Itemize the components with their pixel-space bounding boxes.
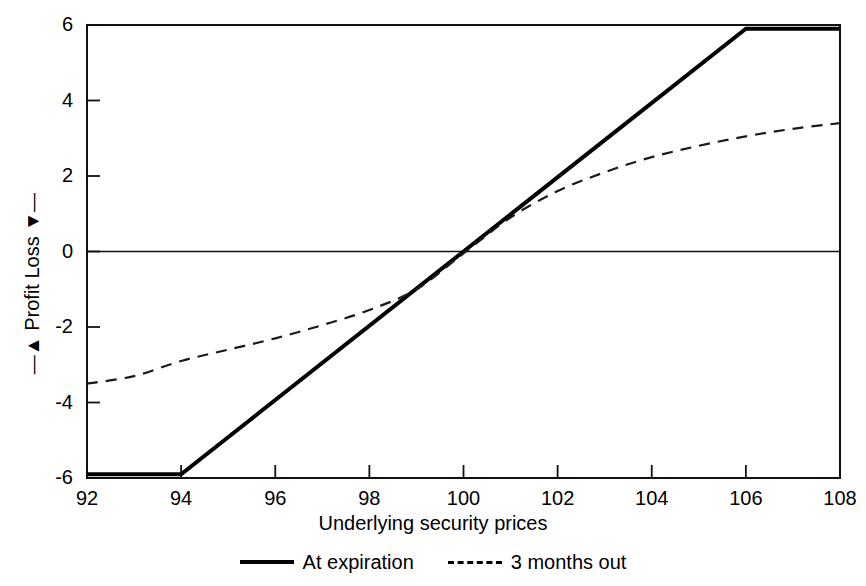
y-axis-title-profit: Profit xyxy=(21,284,43,331)
legend-solid-line-icon xyxy=(240,560,294,564)
x-tick-label-92: 92 xyxy=(47,488,127,508)
x-axis-title: Underlying security prices xyxy=(0,512,866,535)
y-axis-ticks xyxy=(87,25,100,478)
profit-up-arrow-icon: —▲ xyxy=(22,336,44,374)
y-axis-title-loss: Loss xyxy=(21,236,43,278)
legend-label-at-expiration: At expiration xyxy=(303,552,414,572)
x-tick-label-100: 100 xyxy=(424,488,504,508)
y-tick-label-6: 6 xyxy=(15,14,73,34)
x-tick-label-102: 102 xyxy=(518,488,598,508)
chart-legend: At expiration 3 months out xyxy=(0,552,866,572)
x-tick-label-94: 94 xyxy=(141,488,221,508)
x-axis-ticks xyxy=(87,465,840,478)
loss-down-arrow-icon: ▼— xyxy=(22,193,44,231)
x-tick-label-108: 108 xyxy=(800,488,866,508)
x-tick-label-96: 96 xyxy=(235,488,315,508)
chart-container: 6420-2-4-6 92949698100102104106108 —▲ Pr… xyxy=(0,0,866,586)
legend-label-3-months-out: 3 months out xyxy=(511,552,627,572)
legend-item-at-expiration: At expiration xyxy=(240,552,414,572)
legend-dashed-line-icon xyxy=(448,561,502,564)
x-tick-label-98: 98 xyxy=(329,488,409,508)
x-tick-label-104: 104 xyxy=(612,488,692,508)
y-axis-title: —▲ Profit Loss ▼— xyxy=(21,94,44,474)
series-3-months-out xyxy=(87,123,840,383)
x-tick-label-106: 106 xyxy=(706,488,786,508)
legend-item-3-months-out: 3 months out xyxy=(448,552,627,572)
